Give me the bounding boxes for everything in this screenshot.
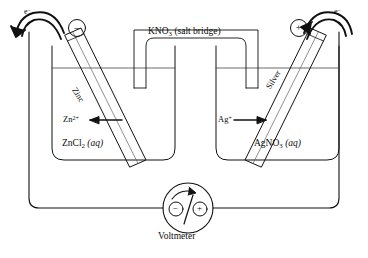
voltmeter-positive-sign: + bbox=[197, 204, 202, 213]
cell-diagram-svg bbox=[0, 0, 368, 258]
silver-ion-label: Ag+ bbox=[218, 115, 232, 124]
salt-bridge-outer-wall bbox=[134, 30, 258, 88]
positive-terminal-sign: + bbox=[296, 22, 302, 33]
voltmeter-label: Voltmeter bbox=[158, 232, 195, 242]
salt-bridge-label: KNO3 (salt bridge) bbox=[148, 27, 221, 37]
voltmeter-deflection-arrowhead bbox=[188, 187, 196, 195]
negative-terminal-sign: − bbox=[74, 23, 80, 34]
electron-label-left: e− bbox=[24, 8, 31, 16]
zinc-ion-label: Zn2+ bbox=[63, 115, 79, 124]
electron-label-right: e− bbox=[334, 8, 341, 16]
electron-arrow-left-inner bbox=[22, 19, 61, 39]
voltmeter-negative-sign: − bbox=[173, 204, 178, 213]
salt-bridge-inner-wall bbox=[146, 38, 246, 88]
galvanic-cell-figure: KNO3 (salt bridge) Zinc Silver ZnCl2 (aq… bbox=[0, 0, 368, 258]
voltmeter-needle bbox=[184, 195, 193, 224]
zn-ion-arrowhead bbox=[90, 117, 99, 124]
zinc-solution-label: ZnCl2 (aq) bbox=[62, 139, 103, 149]
ag-ion-arrowhead bbox=[257, 117, 266, 124]
silver-solution-label: AgNO3 (aq) bbox=[254, 139, 301, 149]
